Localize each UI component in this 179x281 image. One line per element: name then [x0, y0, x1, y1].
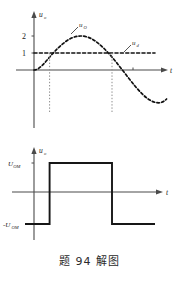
- top-plot: u o t 2 1 u O u d: [0, 0, 179, 140]
- figure-root: u o t 2 1 u O u d: [0, 0, 179, 281]
- top-plot-y-axis-label: u: [39, 10, 43, 19]
- annotation-ud: u d: [124, 39, 139, 52]
- bottom-plot-level-low-subscript: OM: [11, 225, 19, 230]
- annotation-ud-subscript: d: [136, 43, 139, 48]
- bottom-plot-level-high: U OM: [8, 160, 34, 169]
- top-plot-y-axis-label-subscript: o: [44, 15, 47, 20]
- figure-caption: 题 94 解图: [0, 252, 179, 268]
- bottom-plot-level-low-label: -U: [3, 221, 11, 229]
- square-wave-curve-uo: [25, 163, 155, 224]
- bottom-plot-x-axis: [12, 189, 163, 194]
- bottom-plot-y-axis-label-subscript: o: [44, 151, 47, 156]
- sinusoid-curve-uo: [34, 36, 167, 103]
- annotation-ud-label: u: [132, 39, 136, 47]
- top-plot-ytick-2-label: 2: [22, 32, 26, 41]
- top-plot-ytick-1-label: 1: [22, 49, 26, 58]
- bottom-plot: u o t U OM -U OM: [0, 140, 179, 252]
- annotation-uo: u O: [71, 21, 88, 34]
- top-plot-x-axis-label: t: [170, 66, 173, 75]
- bottom-plot-level-low: -U OM: [3, 221, 34, 230]
- annotation-uo-subscript: O: [84, 25, 88, 30]
- bottom-plot-y-axis: [31, 147, 36, 240]
- bottom-plot-level-high-subscript: OM: [13, 164, 21, 169]
- top-plot-ytick-2: 2: [22, 32, 34, 41]
- bottom-plot-y-axis-label: u: [39, 146, 43, 155]
- top-plot-ytick-1: 1: [22, 49, 34, 58]
- annotation-uo-label: u: [79, 21, 83, 29]
- bottom-plot-x-axis-label: t: [166, 188, 169, 197]
